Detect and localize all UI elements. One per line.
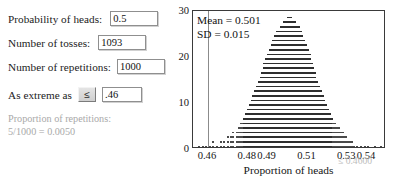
field-row-probability-of-heads: Probability of heads: 0.5 xyxy=(8,10,158,27)
x-tick-label: 0.48 xyxy=(237,150,256,161)
x-tick-label: 0.49 xyxy=(257,150,276,161)
data-dot xyxy=(320,90,322,92)
mean-label: Mean = xyxy=(197,14,232,26)
sd-stat-line: SD = 0.015 xyxy=(197,28,261,42)
y-tick-label: 30 xyxy=(178,5,189,16)
control-panel: Probability of heads: 0.5 Number of toss… xyxy=(0,0,168,184)
number-of-repetitions-input[interactable]: 1000 xyxy=(117,59,165,74)
label-probability-of-heads: Probability of heads: xyxy=(8,13,102,25)
data-dot xyxy=(342,132,344,134)
label-number-of-repetitions: Number of repetitions: xyxy=(8,61,111,73)
data-dot xyxy=(331,118,333,120)
probability-of-heads-input[interactable]: 0.5 xyxy=(110,11,158,26)
data-dot xyxy=(198,146,200,148)
label-number-of-tosses: Number of tosses: xyxy=(8,37,90,49)
data-dot xyxy=(290,17,292,19)
x-tick-label: 0.46 xyxy=(198,150,217,161)
data-dot xyxy=(220,141,222,143)
data-dot xyxy=(314,77,316,79)
data-dot xyxy=(345,136,347,138)
sd-value: 0.015 xyxy=(224,28,250,40)
data-dot xyxy=(325,104,327,106)
data-dot xyxy=(353,146,355,148)
data-dot xyxy=(305,44,307,46)
cutoff-value-label: ≤ 0.4600 xyxy=(338,155,372,166)
data-dot xyxy=(316,81,318,83)
data-dot xyxy=(294,21,296,23)
y-tick-label: 0 xyxy=(184,143,189,154)
mean-value: 0.501 xyxy=(235,14,261,26)
mean-stat-line: Mean = 0.501 xyxy=(197,14,261,28)
data-dot xyxy=(209,146,211,148)
proportion-of-repetitions-note: Proportion of repetitions: 5/1000 = 0.00… xyxy=(8,112,158,138)
data-dot xyxy=(232,141,234,143)
plot-area: Mean = 0.501 SD = 0.015 xyxy=(192,10,385,148)
data-dot xyxy=(318,86,320,88)
x-tick-label: 0.51 xyxy=(297,150,316,161)
data-dot xyxy=(380,146,382,148)
data-dot xyxy=(364,146,366,148)
y-tick-label: 10 xyxy=(178,97,189,108)
proportion-note-line1: Proportion of repetitions: xyxy=(8,112,158,125)
data-dot xyxy=(314,72,316,74)
data-dot xyxy=(300,31,302,33)
data-dot xyxy=(323,100,325,102)
data-dot xyxy=(232,146,234,148)
field-row-number-of-repetitions: Number of repetitions: 1000 xyxy=(8,58,165,75)
proportion-note-line2: 5/1000 = 0.0050 xyxy=(8,125,158,138)
number-of-tosses-input[interactable]: 1093 xyxy=(98,35,146,50)
data-dot xyxy=(338,127,340,129)
y-tick-label: 20 xyxy=(178,51,189,62)
data-dot xyxy=(312,67,314,69)
label-as-extreme-as: As extreme as xyxy=(8,89,72,101)
data-dot xyxy=(356,146,358,148)
comparison-operator-dropdown[interactable]: ≤ xyxy=(78,87,96,102)
data-dot xyxy=(367,146,369,148)
data-dot xyxy=(227,146,229,148)
data-dot xyxy=(212,141,214,143)
data-dot xyxy=(360,146,362,148)
data-dot xyxy=(311,63,313,65)
data-dot xyxy=(329,113,331,115)
dotplot-chart: 0102030 Mean = 0.501 SD = 0.015 0.460.48… xyxy=(168,0,399,184)
data-dot xyxy=(223,141,225,143)
field-row-as-extreme-as: As extreme as ≤ .46 xyxy=(8,86,142,103)
data-dot xyxy=(298,26,300,28)
data-dot xyxy=(309,54,311,56)
data-dot xyxy=(301,35,303,37)
data-dot xyxy=(223,146,225,148)
sd-label: SD = xyxy=(197,28,221,40)
data-dot xyxy=(220,146,222,148)
data-dot xyxy=(351,141,353,143)
data-dot xyxy=(212,146,214,148)
data-dot xyxy=(307,49,309,51)
data-dot xyxy=(232,136,234,138)
as-extreme-as-input[interactable]: .46 xyxy=(102,87,142,102)
data-dot xyxy=(334,123,336,125)
data-dot xyxy=(309,58,311,60)
summary-statistics: Mean = 0.501 SD = 0.015 xyxy=(197,14,261,41)
data-dot xyxy=(374,146,376,148)
data-dot xyxy=(202,146,204,148)
data-dot xyxy=(232,132,234,134)
field-row-number-of-tosses: Number of tosses: 1093 xyxy=(8,34,146,51)
data-dot xyxy=(327,109,329,111)
data-dot xyxy=(227,141,229,143)
data-dot xyxy=(303,40,305,42)
data-dot xyxy=(216,146,218,148)
applet-root: Probability of heads: 0.5 Number of toss… xyxy=(0,0,399,184)
data-dot xyxy=(227,136,229,138)
data-dot xyxy=(322,95,324,97)
data-dot xyxy=(205,146,207,148)
